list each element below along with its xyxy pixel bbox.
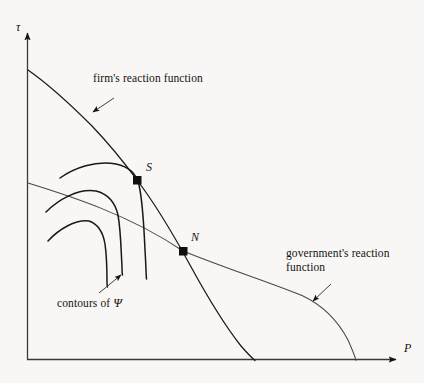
contours-of-psi-group [46, 163, 147, 287]
leader-contours [99, 275, 121, 293]
figure-root: firm's reaction function government's re… [0, 0, 424, 383]
psi-symbol: Ψ [113, 296, 122, 310]
axes-group [27, 33, 396, 360]
reaction-function-chart [0, 0, 424, 383]
marker-point-s [133, 176, 142, 185]
point-label-n: N [191, 230, 199, 244]
point-label-s: S [146, 160, 152, 174]
y-axis-label-tau: τ [16, 20, 20, 34]
contour-psi-inner [48, 221, 108, 287]
annotation-government-line-2: function [286, 261, 325, 273]
annotation-government-reaction-function: government's reactionfunction [286, 247, 389, 274]
leader-government-reaction [313, 284, 331, 301]
annotation-contours-of-psi: contours of Ψ [57, 296, 122, 311]
marker-point-n [179, 247, 188, 256]
x-axis-label-p: P [404, 341, 411, 355]
annotation-firm-reaction-function: firm's reaction function [93, 72, 203, 86]
curve-firm-reaction-function [28, 70, 255, 361]
leader-firm-reaction [93, 98, 114, 112]
annotation-government-line-1: government's reaction [286, 247, 389, 259]
contours-label-text: contours of [57, 297, 113, 309]
